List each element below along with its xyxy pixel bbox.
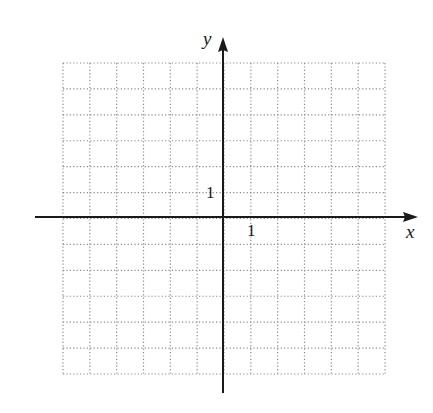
axes xyxy=(35,37,418,393)
x-axis-label: x xyxy=(406,222,414,241)
x-tick-label-1: 1 xyxy=(247,222,256,239)
y-tick-label-1: 1 xyxy=(206,184,215,201)
y-axis-arrow-icon xyxy=(218,37,228,52)
y-axis-label: y xyxy=(203,29,211,48)
coordinate-plane xyxy=(0,0,433,413)
